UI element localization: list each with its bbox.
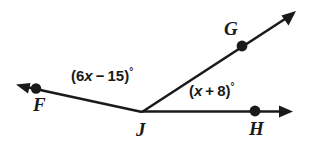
angle1-variable: x (84, 67, 92, 84)
point-label-h: H (249, 119, 264, 138)
angle1-degree-symbol: ° (129, 66, 133, 77)
point-label-g: G (224, 19, 238, 38)
angle2-operator: + (205, 82, 214, 99)
point-dot-h (250, 106, 261, 117)
angle-label-gjh: (x + 8)° (189, 83, 234, 98)
diagram-canvas (0, 0, 313, 151)
point-label-j: J (136, 120, 146, 139)
point-dot-g (237, 41, 248, 52)
angle2-degree-symbol: ° (230, 81, 234, 92)
ray-jh-arrowhead (279, 106, 293, 118)
geometry-diagram: F G H J (6x − 15)° (x + 8)° (0, 0, 313, 151)
ray-jg-arrowhead (282, 11, 297, 26)
angle2-variable: x (194, 82, 202, 99)
ray-jf-arrowhead (16, 83, 31, 94)
point-dot-f (31, 83, 41, 93)
point-label-f: F (33, 95, 46, 114)
angle1-constant: 15 (107, 67, 124, 84)
angle1-operator: − (96, 67, 105, 84)
angle-label-fjg: (6x − 15)° (71, 68, 133, 83)
ray-jh (142, 106, 293, 118)
